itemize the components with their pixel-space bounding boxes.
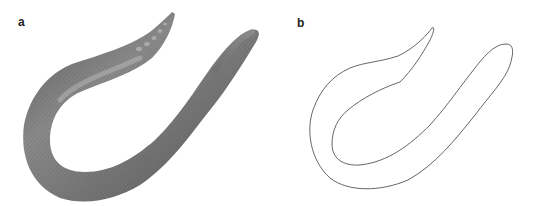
panel-a-photo: a xyxy=(0,0,270,206)
worm-outline-path xyxy=(310,28,513,189)
earthworm-photo xyxy=(0,0,270,206)
panel-b-outline: b xyxy=(270,0,537,206)
earthworm-outline xyxy=(270,0,537,206)
